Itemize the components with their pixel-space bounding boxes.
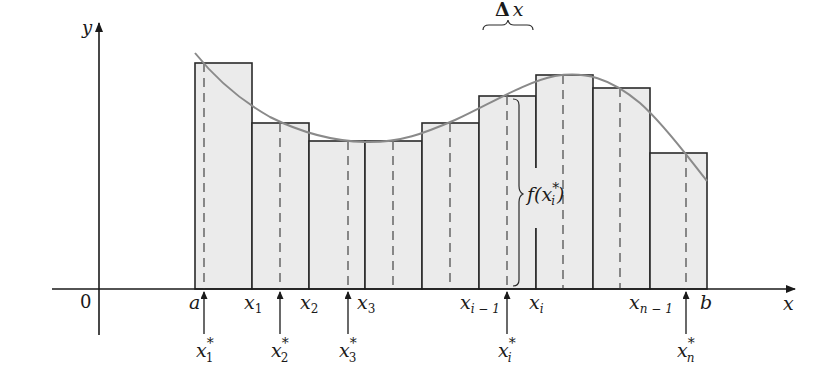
y-axis-label: y <box>81 17 93 38</box>
label-x1-star: x*1 <box>196 335 214 365</box>
label-x2: x2 <box>300 291 318 316</box>
rectangle-8 <box>593 88 650 289</box>
label-xi-star: x*i <box>498 335 516 365</box>
label-x-n-minus-1: xn − 1 <box>629 291 673 316</box>
rectangle-7 <box>536 75 593 289</box>
rectangle-3 <box>309 141 365 289</box>
label-x2-star: x*2 <box>271 335 289 365</box>
height-label: f(x*i) <box>525 180 564 208</box>
riemann-sum-figure: y x 0 a b x1 x2 x3 xi − 1 xi xn − 1 x*1 … <box>0 0 837 384</box>
label-b: b <box>700 291 712 313</box>
label-x1: x1 <box>244 291 262 316</box>
delta-x-label: Δx <box>495 0 524 20</box>
label-x3-star: x*3 <box>339 335 357 365</box>
origin-label: 0 <box>80 291 91 312</box>
sample-arrows <box>204 292 686 334</box>
label-x-i: xi <box>529 291 544 316</box>
label-x-i-minus-1: xi − 1 <box>460 291 500 316</box>
label-xn-star: x*n <box>677 335 695 365</box>
rectangle-9 <box>650 153 707 289</box>
label-a: a <box>189 291 200 313</box>
rectangles <box>195 63 707 289</box>
x-axis-label: x <box>783 292 794 314</box>
label-x3: x3 <box>357 291 375 316</box>
delta-x-brace <box>483 20 533 30</box>
